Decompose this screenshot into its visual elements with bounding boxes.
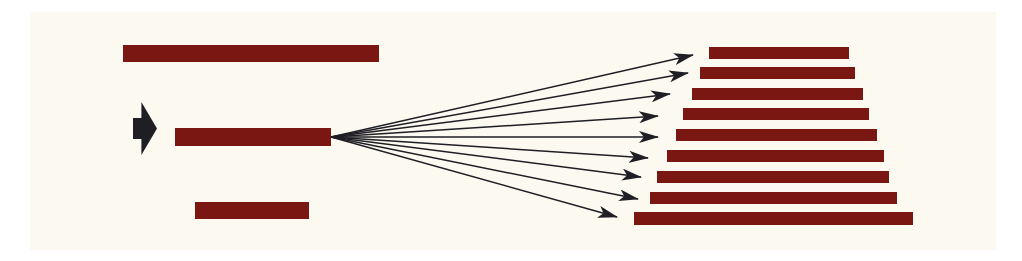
fan-arrow-3 (331, 94, 670, 137)
target-bar-7 (657, 171, 889, 183)
target-bar-9 (634, 212, 913, 225)
fan-arrow-8 (331, 137, 638, 199)
fan-arrow-6 (331, 137, 648, 158)
source-bar-selected (175, 128, 331, 146)
fan-arrow-2 (331, 73, 688, 137)
target-bar-4 (683, 108, 869, 120)
fan-arrows (331, 55, 693, 217)
target-bar-6 (667, 150, 884, 162)
target-bar-5 (676, 129, 877, 141)
target-bar-8 (650, 192, 897, 204)
target-bar-1 (709, 47, 849, 59)
pointer-arrow-icon (133, 102, 157, 155)
target-bar-2 (700, 67, 855, 79)
source-bar-3 (195, 202, 309, 219)
source-bars (123, 45, 379, 219)
target-bar-3 (692, 88, 863, 100)
one-to-many-diagram (0, 0, 1022, 261)
source-bar-1 (123, 45, 379, 62)
pointer-arrow-icon (133, 102, 157, 155)
fan-arrow-7 (331, 137, 641, 177)
target-bars (634, 47, 913, 225)
fan-arrow-9 (331, 137, 617, 217)
